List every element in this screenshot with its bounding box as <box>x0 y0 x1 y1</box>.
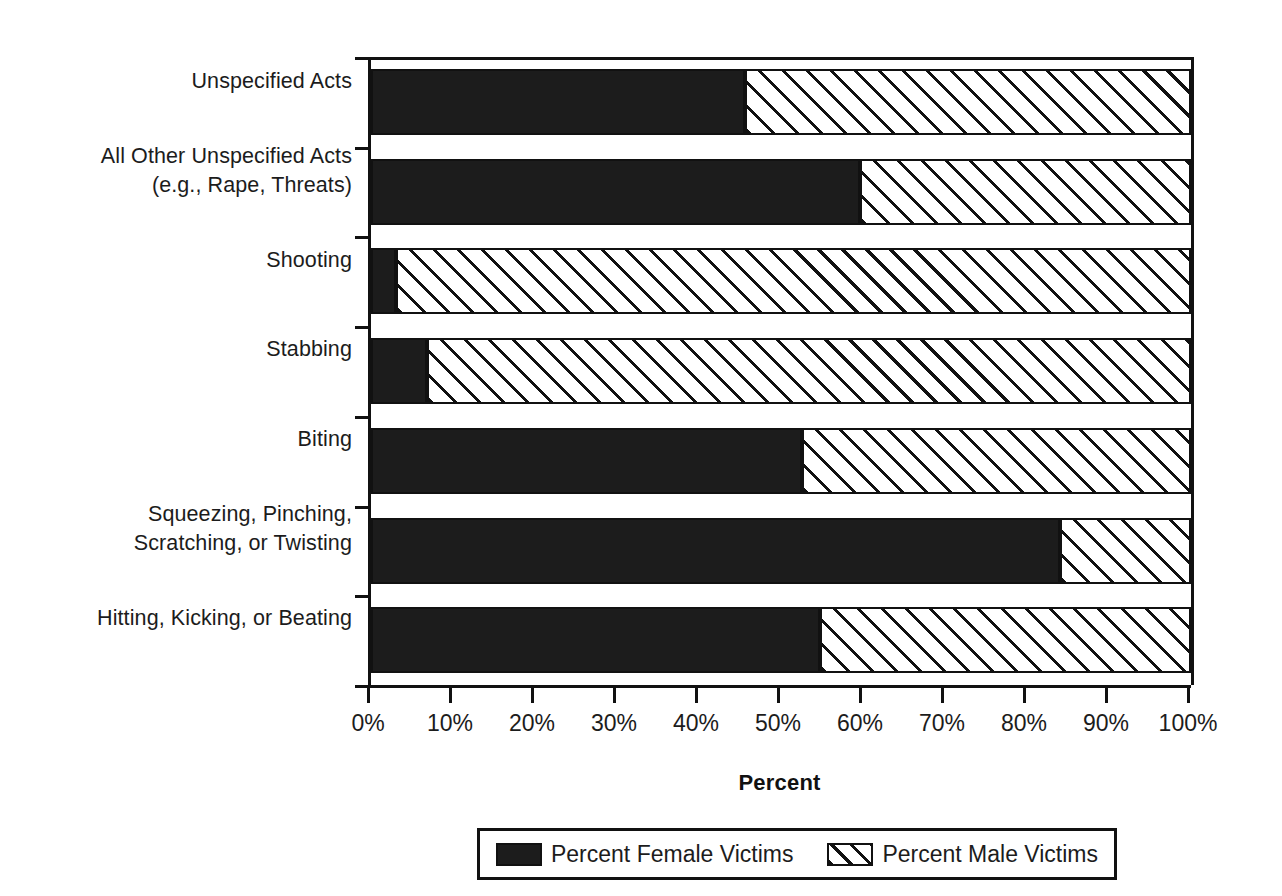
category-label-squeezing-pinching-scratching-twisting: Squeezing, Pinching, Scratching, or Twis… <box>0 500 352 558</box>
x-tick-label: 20% <box>509 710 555 737</box>
bar-segment-male <box>860 159 1191 225</box>
category-label-biting: Biting <box>0 425 352 454</box>
category-label-line: Unspecified Acts <box>191 69 352 93</box>
x-tick <box>1105 688 1108 703</box>
bar-segment-female <box>371 69 745 135</box>
x-tick-label: 100% <box>1159 710 1218 737</box>
x-tick <box>777 688 780 703</box>
x-tick-label: 60% <box>837 710 883 737</box>
female-swatch-icon <box>496 843 542 866</box>
x-tick <box>941 688 944 703</box>
x-axis-title: Percent <box>368 770 1191 796</box>
category-label-line: Biting <box>298 427 352 451</box>
x-tick <box>695 688 698 703</box>
category-label-stabbing: Stabbing <box>0 335 352 364</box>
stacked-bar-chart: Unspecified Acts All Other Unspecified A… <box>0 0 1282 896</box>
category-tick <box>355 506 371 509</box>
legend-item-female: Percent Female Victims <box>496 841 793 867</box>
bar-segment-female <box>371 428 802 494</box>
category-label-shooting: Shooting <box>0 246 352 275</box>
bar-segment-female <box>371 248 396 314</box>
x-tick <box>1187 688 1190 703</box>
bar-row <box>371 607 1191 673</box>
bar-segment-female <box>371 338 427 404</box>
bar-segment-female <box>371 159 860 225</box>
legend-label-male: Percent Male Victims <box>882 841 1098 867</box>
category-label-line: All Other Unspecified Acts <box>101 144 352 168</box>
x-tick-label: 50% <box>755 710 801 737</box>
x-tick-label: 0% <box>351 710 384 737</box>
x-tick-label: 30% <box>591 710 637 737</box>
x-tick <box>1023 688 1026 703</box>
plot-area <box>368 57 1194 685</box>
x-tick-label: 10% <box>427 710 473 737</box>
category-label-line: Hitting, Kicking, or Beating <box>97 606 352 630</box>
category-label-hitting-kicking-beating: Hitting, Kicking, or Beating <box>0 604 352 633</box>
category-tick <box>355 57 371 60</box>
x-tick <box>613 688 616 703</box>
x-tick <box>449 688 452 703</box>
category-label-all-other-unspecified-acts: All Other Unspecified Acts (e.g., Rape, … <box>0 142 352 200</box>
chart-legend: Percent Female Victims Percent Male Vict… <box>477 828 1117 880</box>
bar-row <box>371 338 1191 404</box>
bar-segment-male <box>427 338 1191 404</box>
category-tick <box>355 236 371 239</box>
category-label-line: (e.g., Rape, Threats) <box>0 171 352 200</box>
bar-segment-male <box>802 428 1191 494</box>
bar-segment-male <box>820 607 1191 673</box>
bar-segment-male <box>396 248 1191 314</box>
x-tick <box>367 688 370 703</box>
category-label-line: Shooting <box>266 248 352 272</box>
category-label-line: Squeezing, Pinching, <box>148 502 352 526</box>
bar-segment-female <box>371 607 820 673</box>
category-tick <box>355 326 371 329</box>
category-label-unspecified-acts: Unspecified Acts <box>0 67 352 96</box>
x-tick-label: 40% <box>673 710 719 737</box>
x-tick-label: 80% <box>1001 710 1047 737</box>
category-tick <box>355 147 371 150</box>
x-tick <box>531 688 534 703</box>
category-label-line: Scratching, or Twisting <box>0 529 352 558</box>
bar-row <box>371 159 1191 225</box>
category-label-line: Stabbing <box>266 337 352 361</box>
legend-label-female: Percent Female Victims <box>551 841 793 867</box>
legend-item-male: Percent Male Victims <box>827 841 1098 867</box>
category-tick <box>355 416 371 419</box>
bar-row <box>371 69 1191 135</box>
bar-segment-male <box>745 69 1191 135</box>
x-tick-label: 70% <box>919 710 965 737</box>
bar-row <box>371 248 1191 314</box>
x-tick-label: 90% <box>1083 710 1129 737</box>
category-axis-labels: Unspecified Acts All Other Unspecified A… <box>0 57 352 685</box>
bar-segment-male <box>1060 518 1191 584</box>
category-tick <box>355 595 371 598</box>
bar-segment-female <box>371 518 1060 584</box>
bar-row <box>371 518 1191 584</box>
x-tick <box>859 688 862 703</box>
male-swatch-icon <box>827 843 873 866</box>
bar-row <box>371 428 1191 494</box>
